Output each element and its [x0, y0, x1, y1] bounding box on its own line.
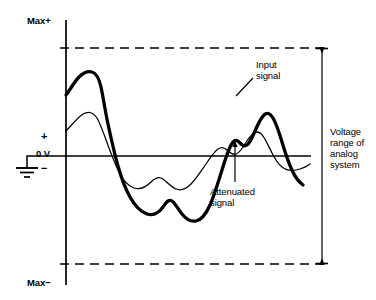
input-signal-curve — [66, 72, 303, 221]
voltage-range-line-1: Voltage — [330, 126, 364, 137]
axis-label-negative-sign: − — [41, 163, 47, 174]
attenuated-signal-curve — [66, 112, 310, 189]
diagram-canvas — [0, 0, 376, 300]
ground-icon — [16, 156, 57, 177]
axis-label-max-negative: Max− — [27, 277, 51, 288]
annotation-input-signal: Input signal — [256, 59, 280, 81]
voltage-range-line-3: analog — [330, 148, 364, 159]
voltage-range-bracket — [316, 47, 328, 265]
axis-label-positive-sign: + — [41, 131, 47, 142]
axis-label-max-positive: Max+ — [27, 15, 51, 26]
voltage-range-line-2: range of — [330, 137, 364, 148]
annotation-voltage-range: Voltage range of analog system — [330, 126, 364, 170]
signal-attenuation-diagram: Max+ Max− 0 V + − Input signal Attenuate… — [0, 0, 376, 300]
input-signal-leader-line — [236, 78, 253, 96]
voltage-range-line-4: system — [330, 159, 364, 170]
input-signal-line-2: signal — [256, 70, 280, 81]
input-signal-line-1: Input — [256, 59, 280, 70]
annotation-attenuated-signal: Attenuated signal — [210, 186, 255, 208]
axis-label-zero-volt: 0 V — [36, 148, 50, 159]
attenuated-signal-line-1: Attenuated — [210, 186, 255, 197]
attenuated-signal-line-2: signal — [210, 197, 255, 208]
